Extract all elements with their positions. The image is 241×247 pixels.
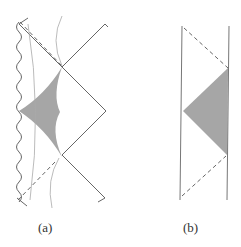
dashed-null-upper [20,22,62,66]
penrose-diagram-figure [0,0,241,247]
null-boundary-lower [62,155,105,202]
dashed-null-upper-b [184,28,228,68]
dashed-null-lower [18,162,55,200]
panel-a [17,16,109,208]
dashed-null-lower-b [182,156,226,196]
shaded-region-a [19,67,62,157]
panel-a-label: (a) [38,220,52,236]
shaded-region-b [183,68,228,155]
panel-b-label: (b) [183,220,198,236]
panel-b [180,26,229,200]
vertical-boundary-left [180,26,182,200]
null-boundary-middle [62,67,106,155]
hyperbola-upper-right [56,16,62,66]
hyperbola-lower-right [50,158,59,208]
